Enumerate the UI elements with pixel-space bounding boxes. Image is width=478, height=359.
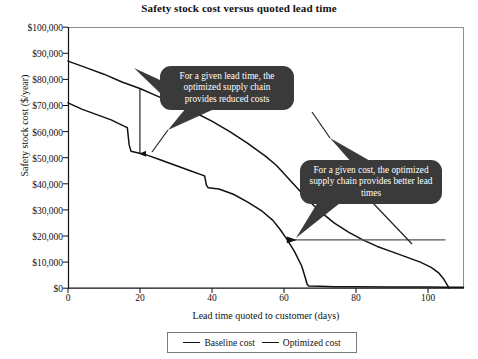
- callout-reduced-costs: For a given lead time, the optimized sup…: [160, 66, 294, 110]
- x-tick-label: 60: [264, 293, 304, 303]
- callout-2-tail-bottom: [296, 202, 340, 238]
- y-tick-label: $90,000: [3, 49, 63, 59]
- y-tick-label: $50,000: [3, 154, 63, 164]
- legend-line-icon: [262, 342, 279, 343]
- y-tick-label: $30,000: [3, 206, 63, 216]
- legend-entry-optimized-cost: Optimized cost: [262, 338, 341, 348]
- callout-better-lead-times: For a given cost, the optimized supply c…: [300, 160, 442, 204]
- x-tick-label: 0: [48, 293, 88, 303]
- callout-1-pointer-line: [152, 130, 168, 152]
- legend-label: Baseline cost: [204, 338, 254, 348]
- legend-entry-baseline-cost: Baseline cost: [183, 338, 254, 348]
- callout-2-pointer-line-top: [312, 112, 330, 138]
- x-tick-label: 40: [192, 293, 232, 303]
- y-axis-ticks: [63, 27, 68, 288]
- y-tick-label: $60,000: [3, 128, 63, 138]
- y-tick-label: $20,000: [3, 232, 63, 242]
- x-tick-label: 80: [336, 293, 376, 303]
- callout-2-pointer-line-bottom: [372, 202, 412, 244]
- legend-line-icon: [183, 342, 200, 343]
- y-tick-label: $80,000: [3, 75, 63, 85]
- callout-1-tail-bottom: [168, 108, 212, 130]
- y-axis-tick-labels: $100,000 $90,000 $80,000 $70,000 $60,000…: [0, 0, 63, 359]
- y-tick-label: $70,000: [3, 101, 63, 111]
- chart-title: Safety stock cost versus quoted lead tim…: [0, 2, 478, 14]
- chart-figure: Safety stock cost versus quoted lead tim…: [0, 0, 478, 359]
- callout-1-tail-left: [134, 68, 160, 93]
- chart-legend: Baseline cost Optimized cost: [167, 332, 357, 353]
- legend-label: Optimized cost: [283, 338, 341, 348]
- y-tick-label: $100,000: [3, 23, 63, 33]
- x-tick-label: 20: [120, 293, 160, 303]
- y-tick-label: $10,000: [3, 258, 63, 268]
- y-tick-label: $40,000: [3, 180, 63, 190]
- x-axis-title: Lead time quoted to customer (days): [68, 310, 464, 321]
- x-tick-label: 100: [408, 293, 448, 303]
